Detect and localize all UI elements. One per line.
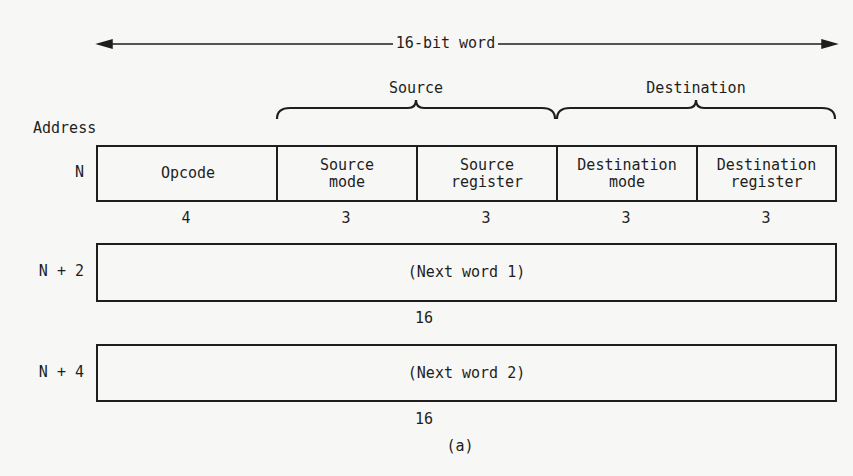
- field-next-word-2: (Next word 2): [98, 346, 835, 400]
- word-width-label: 16-bit word: [393, 35, 498, 52]
- field-next-word-2-label: (Next word 2): [408, 365, 525, 382]
- bits-source-register: 3: [416, 210, 556, 227]
- destination-brace: [557, 100, 835, 119]
- field-destination-mode: Destination mode: [556, 147, 696, 200]
- field-destination-register-line2: register: [730, 174, 802, 191]
- field-source-register: Source register: [416, 147, 556, 200]
- field-source-mode-line1: Source: [320, 157, 374, 174]
- bits-opcode: 4: [96, 210, 276, 227]
- field-opcode-label: Opcode: [161, 165, 215, 182]
- bits-source-mode: 3: [276, 210, 416, 227]
- instruction-word-row: Opcode Source mode Source register Desti…: [96, 145, 837, 202]
- field-next-word-1-label: (Next word 1): [408, 264, 525, 281]
- address-label-n: N: [60, 164, 84, 181]
- field-next-word-1: (Next word 1): [98, 245, 835, 300]
- field-destination-mode-line1: Destination: [577, 157, 676, 174]
- bits-destination-register: 3: [696, 210, 836, 227]
- arrow-left-icon: [98, 40, 112, 48]
- bits-destination-mode: 3: [556, 210, 696, 227]
- next-word-2-row: (Next word 2): [96, 344, 837, 402]
- field-opcode: Opcode: [98, 147, 278, 200]
- field-source-register-line2: register: [451, 174, 523, 191]
- source-brace: [277, 100, 555, 119]
- arrow-right-icon: [822, 40, 836, 48]
- field-source-register-line1: Source: [460, 157, 514, 174]
- next-word-1-row: (Next word 1): [96, 243, 837, 302]
- field-source-mode: Source mode: [276, 147, 416, 200]
- field-source-mode-line2: mode: [329, 174, 365, 191]
- address-label-n-plus-4: N + 4: [20, 364, 84, 381]
- field-destination-mode-line2: mode: [609, 174, 645, 191]
- field-destination-register: Destination register: [696, 147, 835, 200]
- address-label-n-plus-2: N + 2: [20, 263, 84, 280]
- figure-caption: (a): [420, 438, 500, 455]
- bits-next-word-1: 16: [384, 310, 464, 327]
- diagram-graphics: [0, 0, 853, 476]
- destination-group-label: Destination: [636, 80, 756, 97]
- source-group-label: Source: [356, 80, 476, 97]
- field-destination-register-line1: Destination: [717, 157, 816, 174]
- address-header: Address: [33, 120, 96, 137]
- bits-next-word-2: 16: [384, 411, 464, 428]
